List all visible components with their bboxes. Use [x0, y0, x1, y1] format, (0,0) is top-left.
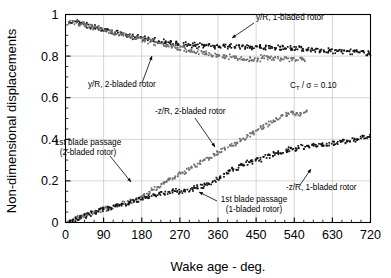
data-point	[277, 45, 279, 47]
data-point	[245, 138, 247, 140]
y-tick-label: 0.6	[41, 91, 58, 105]
data-point	[217, 153, 219, 155]
data-point	[223, 173, 225, 175]
data-point	[229, 169, 231, 171]
data-point	[185, 172, 187, 174]
data-point	[224, 46, 226, 48]
x-axis-title: Wake age - deg.	[171, 259, 266, 274]
annot-1st-passage-2bladed-line1: 1st blade passage	[55, 138, 122, 147]
data-point	[122, 201, 124, 203]
data-point	[310, 49, 312, 51]
annot-1st-passage-1bladed-line2: (1-bladed rotor)	[226, 205, 283, 214]
data-point	[198, 46, 200, 48]
data-point	[275, 117, 277, 119]
data-point	[164, 194, 166, 196]
x-tick-label: 360	[208, 228, 229, 242]
data-point	[287, 151, 289, 153]
data-point	[263, 55, 265, 57]
data-point	[247, 47, 249, 49]
data-point	[363, 52, 365, 54]
data-point	[274, 154, 276, 156]
data-point	[171, 47, 173, 49]
data-point	[356, 49, 358, 51]
data-point	[190, 49, 192, 51]
data-point	[238, 44, 240, 46]
data-point	[277, 150, 279, 152]
data-point	[183, 42, 185, 44]
data-point	[186, 45, 188, 47]
data-point	[244, 59, 246, 61]
data-point	[121, 33, 123, 35]
data-point	[235, 142, 237, 144]
data-point	[191, 187, 193, 189]
x-tick-label: 720	[360, 228, 381, 242]
x-tick-label: 180	[131, 228, 152, 242]
data-point	[132, 199, 134, 201]
data-point	[170, 40, 172, 42]
data-point	[154, 45, 156, 47]
data-point	[164, 41, 166, 43]
data-point	[277, 56, 279, 58]
data-point	[141, 198, 143, 200]
annot-yr-1bladed-text: y/R, 1-bladed rotor	[256, 13, 324, 22]
data-point	[287, 148, 289, 150]
y-tick-label: 0.2	[41, 174, 58, 188]
data-point	[236, 57, 238, 59]
data-point	[158, 186, 160, 188]
data-point	[342, 53, 344, 55]
data-point	[73, 20, 75, 22]
data-point	[245, 46, 247, 48]
data-point	[160, 186, 162, 188]
data-point	[135, 38, 137, 40]
data-point	[196, 188, 198, 190]
data-point	[347, 50, 349, 52]
data-point	[268, 153, 270, 155]
data-point	[212, 55, 214, 57]
data-point	[155, 189, 157, 191]
data-point	[80, 217, 82, 219]
data-point	[252, 161, 254, 163]
data-point	[220, 47, 222, 49]
data-point	[138, 197, 140, 199]
data-point	[108, 208, 110, 210]
data-point	[279, 46, 281, 48]
data-point	[199, 162, 201, 164]
data-point	[270, 48, 272, 50]
data-point	[177, 176, 179, 178]
data-point	[359, 52, 361, 54]
data-point	[90, 215, 92, 217]
data-point	[220, 175, 222, 177]
data-point	[287, 46, 289, 48]
data-point	[114, 34, 116, 36]
data-point	[206, 182, 208, 184]
data-point	[228, 58, 230, 60]
data-point	[251, 60, 253, 62]
data-point	[174, 177, 176, 179]
data-point	[225, 55, 227, 57]
data-point	[206, 184, 208, 186]
data-point	[308, 47, 310, 49]
data-point	[144, 39, 146, 41]
data-point	[144, 41, 146, 43]
data-point	[198, 49, 200, 51]
data-point	[251, 48, 253, 50]
data-point	[213, 153, 215, 155]
data-point	[195, 52, 197, 54]
data-point	[260, 54, 262, 56]
data-point	[190, 51, 192, 53]
data-point	[290, 45, 292, 47]
data-point	[249, 162, 251, 164]
data-point	[306, 111, 308, 113]
data-point	[257, 158, 259, 160]
data-point	[121, 205, 123, 207]
data-point	[208, 159, 210, 161]
data-point	[265, 49, 267, 51]
data-point	[169, 177, 171, 179]
data-point	[212, 45, 214, 47]
data-point	[239, 164, 241, 166]
data-point	[250, 160, 252, 162]
data-point	[197, 163, 199, 165]
data-point	[273, 121, 275, 123]
data-point	[302, 48, 304, 50]
data-point	[280, 49, 282, 51]
